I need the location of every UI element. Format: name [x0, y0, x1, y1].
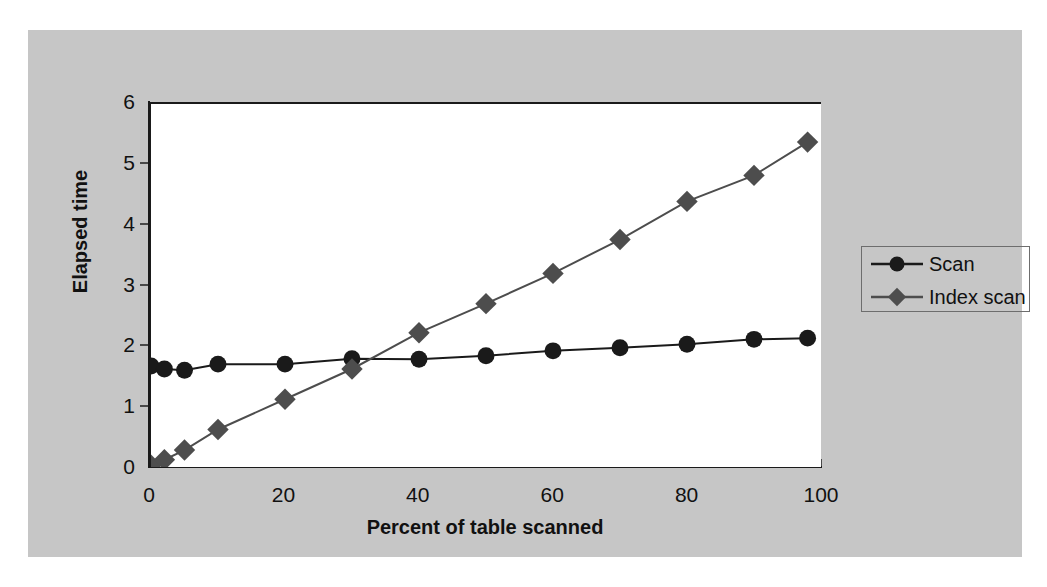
data-point-diamond-icon [408, 322, 429, 343]
series-scan [151, 330, 816, 379]
data-point-circle-icon [799, 330, 816, 347]
x-tick-label: 0 [119, 484, 179, 505]
data-point-diamond-icon [174, 439, 195, 460]
data-point-diamond-icon [207, 419, 228, 440]
data-point-diamond-icon [676, 191, 697, 212]
plot-area [149, 102, 821, 467]
y-tick-label: 0 [101, 456, 135, 477]
data-point-circle-icon [176, 362, 193, 379]
x-axis-title: Percent of table scanned [149, 516, 821, 539]
data-point-diamond-icon [542, 263, 563, 284]
y-tick-label: 1 [101, 395, 135, 416]
data-point-circle-icon [411, 351, 428, 368]
y-tick-label: 2 [101, 334, 135, 355]
data-point-circle-icon [612, 339, 629, 356]
data-point-circle-icon [679, 336, 696, 353]
y-axis-title: Elapsed time [69, 142, 92, 322]
chart-panel: Elapsed time 0123456 020406080100 Percen… [28, 30, 1022, 557]
y-tick-label: 4 [101, 213, 135, 234]
data-point-circle-icon [545, 342, 562, 359]
chart-screenshot: Elapsed time 0123456 020406080100 Percen… [0, 0, 1047, 587]
legend-item-scan[interactable]: Scan [862, 247, 1029, 280]
x-tick-label: 60 [522, 484, 582, 505]
x-tick-label: 80 [657, 484, 717, 505]
legend-label-index-scan: Index scan [929, 287, 1026, 307]
data-point-circle-icon [746, 331, 763, 348]
legend-marker-circle-icon [870, 253, 924, 275]
data-point-circle-icon [478, 347, 495, 364]
legend-label-scan: Scan [929, 254, 975, 274]
x-tick-label: 20 [253, 484, 313, 505]
y-tick-label: 6 [101, 91, 135, 112]
data-point-diamond-icon [274, 389, 295, 410]
legend-marker-diamond-icon [870, 286, 924, 308]
plot-svg [151, 104, 821, 467]
y-tick-label: 5 [101, 152, 135, 173]
data-point-diamond-icon [609, 229, 630, 250]
legend-item-index-scan[interactable]: Index scan [862, 280, 1029, 313]
data-point-diamond-icon [743, 165, 764, 186]
data-point-diamond-icon [797, 131, 818, 152]
x-tick-label: 100 [791, 484, 851, 505]
data-point-diamond-icon [475, 293, 496, 314]
data-point-circle-icon [156, 361, 173, 378]
legend: Scan Index scan [861, 246, 1030, 312]
y-tick-label: 3 [101, 274, 135, 295]
x-tick-label: 40 [388, 484, 448, 505]
series-index-scan [151, 131, 818, 467]
data-point-circle-icon [210, 356, 227, 373]
data-point-circle-icon [277, 356, 294, 373]
